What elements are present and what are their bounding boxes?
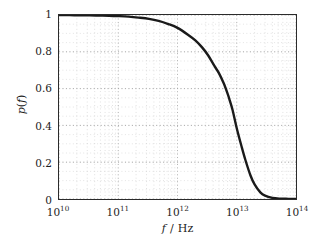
x-tick-mantissa: 10 <box>107 206 120 218</box>
x-axis-tick-label: 1011 <box>88 203 148 218</box>
y-axis-label-open-paren: ( <box>15 103 28 107</box>
x-tick-mantissa: 10 <box>47 206 60 218</box>
curve-path <box>59 15 296 199</box>
y-axis-tick-label: 0.8 <box>0 46 52 57</box>
y-axis-label-symbol: p <box>15 107 28 114</box>
x-tick-mantissa: 10 <box>286 206 299 218</box>
x-tick-exponent: 11 <box>120 204 129 213</box>
x-tick-exponent: 10 <box>60 204 69 213</box>
x-axis-tick-label: 1013 <box>207 203 267 218</box>
x-tick-exponent: 12 <box>180 204 189 213</box>
x-axis-tick-label: 1012 <box>148 203 208 218</box>
plot-area <box>58 14 297 200</box>
x-axis-label: f / Hz <box>58 222 297 235</box>
y-axis-tick-label: 1 <box>0 9 52 20</box>
data-curve <box>59 15 296 199</box>
x-axis-tick-label: 1010 <box>28 203 88 218</box>
figure: 00.20.40.60.81 10101011101210131014 f / … <box>0 0 327 252</box>
x-tick-exponent: 13 <box>239 204 248 213</box>
y-axis-label: p(f) <box>15 70 28 140</box>
y-axis-label-close-paren: ) <box>15 95 28 99</box>
x-tick-mantissa: 10 <box>166 206 179 218</box>
x-axis-tick-label: 1014 <box>267 203 327 218</box>
x-tick-mantissa: 10 <box>226 206 239 218</box>
x-tick-exponent: 14 <box>299 204 308 213</box>
y-axis-label-arg: f <box>15 99 28 103</box>
y-axis-tick-label: 0.2 <box>0 158 52 169</box>
x-axis-label-unit: Hz <box>178 222 193 235</box>
